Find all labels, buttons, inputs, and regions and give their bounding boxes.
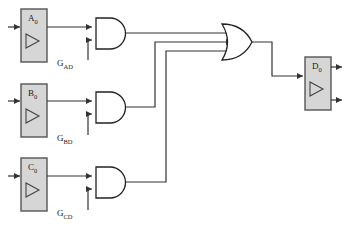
circuit-schematic-svg xyxy=(0,0,344,239)
and-gate-bd-shape xyxy=(96,92,125,123)
buffer-label-a0-sub: 0 xyxy=(35,18,38,25)
buffer-label-a0: A0 xyxy=(28,14,38,25)
and-gate-label-bd: GBD xyxy=(57,134,73,145)
and-gate-label-ad: GAD xyxy=(57,59,73,70)
circuit-diagram: A0 B0 C0 D0 GAD GBD GCD xyxy=(0,0,344,239)
wire-or-to-buffer-d0 xyxy=(252,42,303,76)
buffer-label-b0: B0 xyxy=(28,89,37,100)
and-gate-ad-shape xyxy=(96,18,125,49)
and-gate-label-bd-sub: BD xyxy=(64,138,73,145)
wire-and-bd-to-or xyxy=(126,42,232,107)
wire-and-cd-to-or xyxy=(126,51,232,182)
and-gate-label-cd: GCD xyxy=(57,209,73,220)
buffer-label-c0: C0 xyxy=(28,163,37,174)
buffer-label-c0-sub: 0 xyxy=(34,167,37,174)
and-gate-cd-shape xyxy=(96,167,126,198)
buffer-label-b0-sub: 0 xyxy=(34,93,37,100)
and-gate-label-cd-sub: CD xyxy=(64,213,73,220)
and-gate-label-ad-sub: AD xyxy=(64,63,73,70)
buffer-label-d0-sub: 0 xyxy=(319,66,322,73)
wire-control-to-and-cd xyxy=(88,189,92,210)
wire-control-to-and-ad xyxy=(88,40,92,60)
buffer-label-d0: D0 xyxy=(312,62,322,73)
wire-control-to-and-bd xyxy=(88,114,92,135)
